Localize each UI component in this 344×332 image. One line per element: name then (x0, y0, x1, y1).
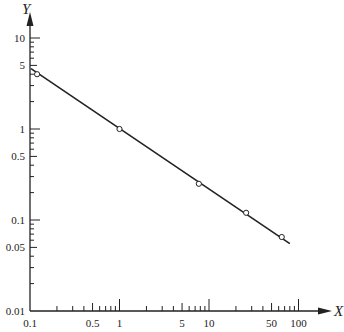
data-point-marker (34, 72, 39, 77)
x-tick-label: 0.5 (86, 317, 100, 329)
x-tick-label: 0.1 (23, 317, 37, 329)
data-point-marker (196, 181, 201, 186)
y-tick-label: 10 (14, 32, 26, 44)
x-tick-label: 100 (290, 317, 307, 329)
x-tick-label: 1 (117, 317, 123, 329)
y-tick-label: 0.5 (11, 150, 25, 162)
data-point-marker (279, 234, 284, 239)
data-point-marker (117, 126, 122, 131)
x-tick-label: 10 (204, 317, 216, 329)
y-tick-label: 0.01 (6, 305, 25, 317)
log-log-chart: 0.10.51510501000.010.050.10.51510 X Y (0, 0, 344, 332)
ticks (30, 38, 299, 311)
x-tick-label: 50 (266, 317, 278, 329)
y-tick-label: 0.05 (6, 241, 26, 253)
axes (27, 12, 333, 315)
tick-labels: 0.10.51510501000.010.050.10.51510 (6, 32, 308, 329)
x-tick-label: 5 (179, 317, 185, 329)
fit-line (31, 69, 290, 244)
y-tick-label: 1 (20, 123, 26, 135)
y-tick-label: 5 (20, 59, 26, 71)
plot-area (31, 69, 290, 244)
x-axis-arrow-icon (318, 308, 332, 315)
y-tick-label: 0.1 (11, 214, 25, 226)
data-point-marker (244, 210, 249, 215)
x-axis-label: X (333, 303, 344, 319)
